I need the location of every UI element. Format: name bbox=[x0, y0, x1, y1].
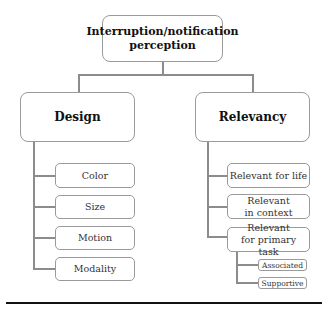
category-node-design: Design bbox=[20, 92, 135, 142]
leaf-label: Relevant in context bbox=[242, 195, 295, 219]
category-label: Relevancy bbox=[219, 110, 287, 124]
connector-relevancy-drop bbox=[252, 74, 254, 92]
leaf-node-relevant-in-context: Relevant in context bbox=[227, 194, 310, 219]
sub-node-supportive: Supportive bbox=[258, 277, 307, 289]
connector-relevancy-context bbox=[207, 206, 227, 208]
sub-label: Associated bbox=[262, 261, 303, 270]
leaf-label: Motion bbox=[78, 232, 112, 244]
leaf-node-modality: Modality bbox=[55, 257, 135, 281]
root-node-label: Interruption/notification perception bbox=[86, 25, 238, 53]
sub-node-associated: Associated bbox=[258, 259, 307, 271]
connector-horizontal-bar bbox=[78, 74, 254, 76]
connector-design-size bbox=[33, 206, 55, 208]
connector-relevancy-primary bbox=[207, 236, 227, 238]
category-node-relevancy: Relevancy bbox=[195, 92, 310, 142]
sub-label: Supportive bbox=[262, 279, 304, 288]
connector-design-modality bbox=[33, 268, 55, 270]
root-node: Interruption/notification perception bbox=[102, 15, 223, 62]
connector-design-motion bbox=[33, 237, 55, 239]
connector-primary-associated bbox=[236, 264, 258, 266]
leaf-label: Relevant for primary task bbox=[240, 222, 297, 258]
connector-design-drop bbox=[78, 74, 80, 92]
leaf-label: Color bbox=[82, 170, 108, 182]
connector-primary-spine bbox=[236, 252, 238, 283]
leaf-node-relevant-for-life: Relevant for life bbox=[227, 163, 310, 188]
connector-relevancy-spine bbox=[207, 142, 209, 238]
leaf-node-color: Color bbox=[55, 163, 135, 188]
category-label: Design bbox=[54, 110, 100, 124]
connector-primary-supportive bbox=[236, 282, 258, 284]
leaf-node-motion: Motion bbox=[55, 226, 135, 250]
leaf-label: Relevant for life bbox=[230, 170, 307, 182]
leaf-label: Size bbox=[85, 201, 105, 213]
leaf-label: Modality bbox=[74, 263, 116, 275]
leaf-node-relevant-for-primary-task: Relevant for primary task bbox=[227, 227, 310, 252]
connector-design-color bbox=[33, 175, 55, 177]
connector-relevancy-life bbox=[207, 175, 227, 177]
leaf-node-size: Size bbox=[55, 195, 135, 219]
bottom-rule bbox=[6, 302, 322, 304]
